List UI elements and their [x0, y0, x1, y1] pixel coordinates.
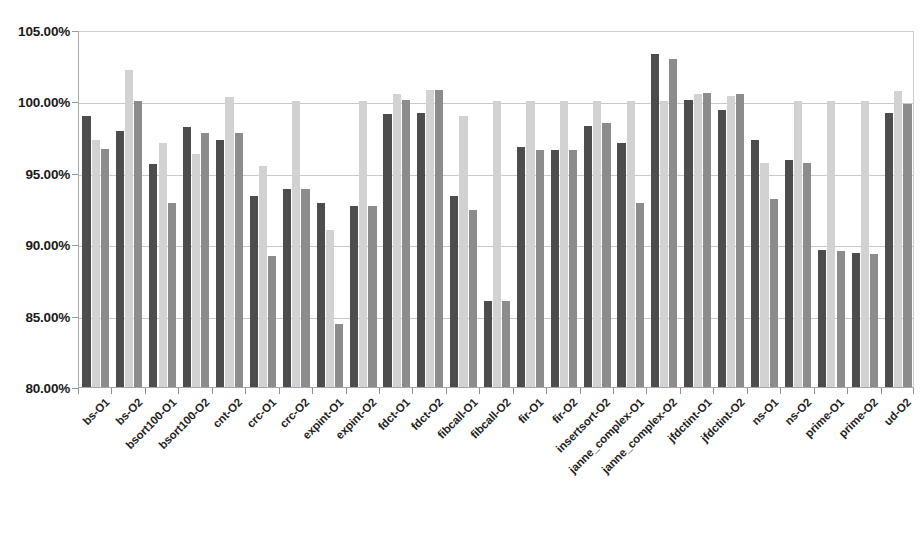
bar — [584, 126, 592, 387]
x-tick-mark — [78, 388, 79, 394]
bar — [894, 91, 902, 387]
bars-layer — [79, 32, 913, 387]
bar — [335, 324, 343, 387]
bar — [92, 140, 100, 387]
y-tick-label: 80.00% — [25, 381, 70, 396]
bar — [259, 166, 267, 387]
bar — [852, 253, 860, 387]
bar — [459, 116, 467, 387]
x-axis-ticks — [78, 388, 914, 395]
bar — [785, 160, 793, 387]
y-axis: 105.00%100.00%95.00%90.00%85.00%80.00% — [0, 0, 78, 400]
bar — [885, 113, 893, 387]
bar — [870, 254, 878, 387]
bar — [359, 101, 367, 387]
bar — [383, 114, 391, 387]
x-tick-mark — [580, 388, 581, 394]
bar — [627, 101, 635, 387]
bar — [168, 203, 176, 387]
bar — [82, 116, 90, 387]
bar — [751, 140, 759, 387]
x-tick-mark — [245, 388, 246, 394]
bar — [803, 163, 811, 387]
x-axis-label: ud-O2 — [882, 396, 914, 428]
x-axis-label: bs-O2 — [114, 396, 145, 427]
y-tick-label: 105.00% — [18, 24, 70, 39]
x-tick-mark — [814, 388, 815, 394]
bar — [216, 140, 224, 387]
x-tick-mark — [646, 388, 647, 394]
bar — [134, 101, 142, 387]
bar — [159, 143, 167, 387]
bar — [794, 101, 802, 387]
bar — [827, 101, 835, 387]
bar — [469, 210, 477, 387]
x-axis-label: cnt-O2 — [211, 396, 245, 430]
bar — [268, 256, 276, 387]
x-tick-mark — [279, 388, 280, 394]
bar — [283, 189, 291, 387]
bar — [517, 147, 525, 387]
bar — [350, 206, 358, 387]
bar — [551, 150, 559, 387]
bar — [727, 96, 735, 387]
bar — [837, 251, 845, 387]
y-tick-label: 90.00% — [25, 238, 70, 253]
plot-area — [78, 31, 914, 388]
bar — [617, 143, 625, 387]
x-axis-label: fdct-O1 — [375, 396, 411, 432]
x-axis-label: fir-O1 — [516, 396, 546, 426]
bar — [760, 163, 768, 387]
bar — [694, 94, 702, 387]
bar — [149, 164, 157, 387]
bar — [301, 189, 309, 387]
bar — [292, 101, 300, 387]
bar — [684, 100, 692, 387]
x-tick-mark — [513, 388, 514, 394]
bar — [317, 203, 325, 387]
bar — [493, 101, 501, 387]
x-tick-mark — [546, 388, 547, 394]
bar — [393, 94, 401, 387]
x-axis-label: bs-O1 — [80, 396, 111, 427]
x-axis-label: fir-O2 — [550, 396, 580, 426]
bar — [703, 93, 711, 387]
bar — [326, 230, 334, 387]
bar — [435, 90, 443, 387]
bar — [560, 101, 568, 387]
x-tick-mark — [412, 388, 413, 394]
bar — [669, 59, 677, 387]
bar — [660, 101, 668, 387]
x-tick-mark — [111, 388, 112, 394]
bar — [125, 70, 133, 387]
bar-chart: 105.00%100.00%95.00%90.00%85.00%80.00% b… — [0, 0, 921, 536]
x-axis-label: ns-O1 — [749, 396, 780, 427]
x-tick-mark — [446, 388, 447, 394]
bar — [651, 54, 659, 387]
x-tick-mark — [212, 388, 213, 394]
bar — [192, 154, 200, 387]
bar — [770, 199, 778, 387]
bar — [402, 100, 410, 387]
x-tick-mark — [613, 388, 614, 394]
x-tick-mark — [680, 388, 681, 394]
bar — [736, 94, 744, 387]
x-axis-label: crc-O1 — [244, 396, 278, 430]
bar — [450, 196, 458, 387]
x-tick-mark — [479, 388, 480, 394]
x-tick-mark — [178, 388, 179, 394]
bar — [536, 150, 544, 387]
x-tick-mark — [145, 388, 146, 394]
bar — [183, 127, 191, 387]
x-tick-mark — [312, 388, 313, 394]
bar — [426, 90, 434, 387]
x-tick-mark — [379, 388, 380, 394]
bar — [636, 203, 644, 387]
x-tick-mark — [881, 388, 882, 394]
bar — [903, 104, 911, 387]
bar — [861, 101, 869, 387]
bar — [225, 97, 233, 387]
bar — [417, 113, 425, 387]
bar — [235, 133, 243, 387]
x-tick-mark — [780, 388, 781, 394]
